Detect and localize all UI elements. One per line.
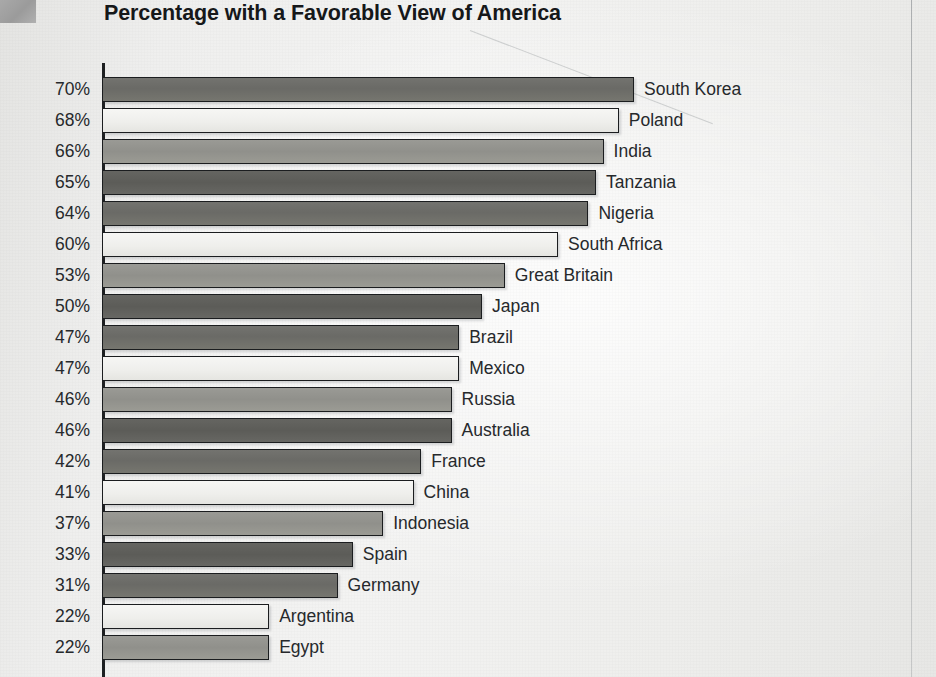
bar-value-label: 31% [0,570,90,601]
bar-category-label: Egypt [279,632,324,663]
bar-category-label: South Korea [644,74,741,105]
bar-value-label: 22% [0,632,90,663]
bar-row: 53%Great Britain [0,260,936,291]
bar-category-label: Great Britain [515,260,613,291]
bar [102,449,421,474]
bar-value-label: 47% [0,353,90,384]
bar-row: 60%South Africa [0,229,936,260]
bar-value-label: 42% [0,446,90,477]
bar-category-label: China [424,477,470,508]
bar-value-label: 47% [0,322,90,353]
bar [102,77,634,102]
bar-value-label: 70% [0,74,90,105]
bar-category-label: Australia [462,415,530,446]
bar [102,263,505,288]
bar [102,511,383,536]
bar-category-label: Nigeria [598,198,653,229]
bar [102,232,558,257]
bar [102,418,452,443]
bar-row: 31%Germany [0,570,936,601]
bar-category-label: India [614,136,652,167]
bar-row: 41%China [0,477,936,508]
bar-row: 50%Japan [0,291,936,322]
bar [102,201,588,226]
bar [102,635,269,660]
bar [102,573,338,598]
bar [102,356,459,381]
bar-value-label: 22% [0,601,90,632]
bar-category-label: Indonesia [393,508,469,539]
bar-value-label: 50% [0,291,90,322]
bar-value-label: 46% [0,384,90,415]
bar-category-label: Poland [629,105,684,136]
bar [102,139,604,164]
bar-row: 46%Russia [0,384,936,415]
bar [102,108,619,133]
bar-category-label: France [431,446,485,477]
bar-category-label: Russia [462,384,516,415]
bar-row: 65%Tanzania [0,167,936,198]
bar-category-label: Germany [348,570,420,601]
bar-value-label: 41% [0,477,90,508]
bar [102,387,452,412]
bar-row: 47%Mexico [0,353,936,384]
bar-value-label: 60% [0,229,90,260]
bar-value-label: 68% [0,105,90,136]
bar-row: 47%Brazil [0,322,936,353]
bar-value-label: 46% [0,415,90,446]
bar-row: 33%Spain [0,539,936,570]
bar-row: 46%Australia [0,415,936,446]
bar-value-label: 37% [0,508,90,539]
bar [102,542,353,567]
bar-value-label: 64% [0,198,90,229]
bar-value-label: 65% [0,167,90,198]
bar-value-label: 33% [0,539,90,570]
bar [102,604,269,629]
bar-row: 37%Indonesia [0,508,936,539]
bar-chart: 70%South Korea68%Poland66%India65%Tanzan… [0,0,936,677]
bar-row: 70%South Korea [0,74,936,105]
bar-category-label: Mexico [469,353,524,384]
bar [102,294,482,319]
bar-row: 22%Egypt [0,632,936,663]
bar-row: 66%India [0,136,936,167]
bar-row: 64%Nigeria [0,198,936,229]
bar [102,480,414,505]
bar-row: 22%Argentina [0,601,936,632]
bar-category-label: Spain [363,539,408,570]
bar-value-label: 53% [0,260,90,291]
bar-category-label: Tanzania [606,167,676,198]
bar-category-label: Argentina [279,601,354,632]
bar-category-label: South Africa [568,229,662,260]
bar-category-label: Brazil [469,322,513,353]
bar-row: 68%Poland [0,105,936,136]
bar [102,170,596,195]
bar-category-label: Japan [492,291,540,322]
bar-value-label: 66% [0,136,90,167]
bar-row: 42%France [0,446,936,477]
bar [102,325,459,350]
